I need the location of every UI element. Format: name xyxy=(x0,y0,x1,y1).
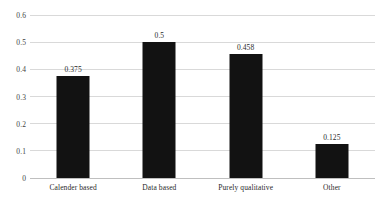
bar[interactable] xyxy=(229,54,262,178)
bar-slot: 0.125 xyxy=(289,15,375,178)
bar-chart: 00.10.20.30.40.50.6 0.3750.50.4580.125 C… xyxy=(0,0,391,207)
x-axis-tick-label: Other xyxy=(323,183,341,192)
y-axis-tick-label: 0.2 xyxy=(16,119,26,128)
bar-slot: 0.5 xyxy=(116,15,202,178)
bar-value-label: 0.375 xyxy=(64,65,81,74)
bar[interactable] xyxy=(143,42,176,178)
x-axis-tick-label: Data based xyxy=(142,183,176,192)
y-axis-tick-label: 0.6 xyxy=(16,11,26,20)
x-axis-tick-label: Purely qualitative xyxy=(218,183,273,192)
y-axis-tick-label: 0.5 xyxy=(16,38,26,47)
bar-slot: 0.375 xyxy=(30,15,116,178)
y-axis-tick-label: 0 xyxy=(22,174,26,183)
bars-layer: 0.3750.50.4580.125 xyxy=(30,15,375,178)
bar-value-label: 0.125 xyxy=(323,133,340,142)
y-axis-tick-label: 0.1 xyxy=(16,146,26,155)
y-axis-tick-label: 0.4 xyxy=(16,65,26,74)
bar-value-label: 0.458 xyxy=(237,43,254,52)
bar-value-label: 0.5 xyxy=(155,31,165,40)
y-axis-tick-label: 0.3 xyxy=(16,92,26,101)
x-axis: Calender basedData basedPurely qualitati… xyxy=(30,183,375,199)
bar[interactable] xyxy=(57,76,90,178)
bar[interactable] xyxy=(315,144,348,178)
x-axis-tick-label: Calender based xyxy=(49,183,96,192)
bar-slot: 0.458 xyxy=(203,15,289,178)
